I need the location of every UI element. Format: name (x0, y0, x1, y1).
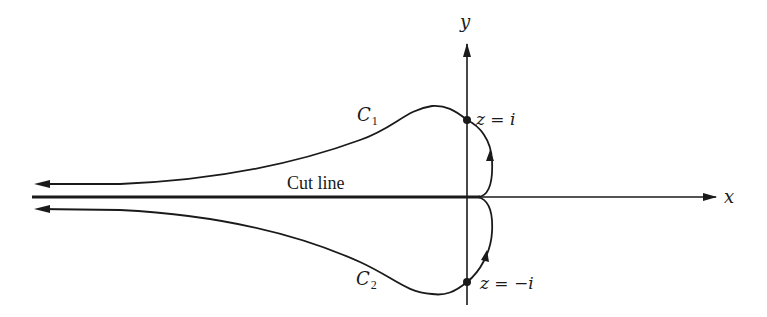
c2-end-arrow-icon (34, 205, 50, 213)
diagram-canvas (0, 0, 767, 317)
contour-c1 (38, 106, 492, 197)
c1-end-arrow-icon (34, 180, 50, 188)
point-z-i-label: z = i (476, 111, 515, 128)
c1-name: C (357, 104, 371, 125)
contour-c2 (38, 197, 492, 295)
x-axis-label: x (724, 188, 734, 206)
point-z-minus-i-label: z = −i (480, 275, 534, 292)
contour-c1-label: C1 (357, 106, 378, 127)
c1-direction-arrow-icon (486, 150, 494, 161)
c2-name: C (356, 268, 370, 289)
y-axis-label: y (460, 13, 470, 31)
c1-subscript: 1 (372, 114, 378, 128)
c2-subscript: 2 (371, 278, 377, 292)
point-z-i (463, 116, 471, 124)
point-z-minus-i (463, 278, 471, 286)
contour-diagram: y x Cut line C1 C2 z = i z = −i (0, 0, 767, 317)
cut-line-label: Cut line (287, 174, 345, 192)
contour-c2-label: C2 (356, 270, 377, 291)
